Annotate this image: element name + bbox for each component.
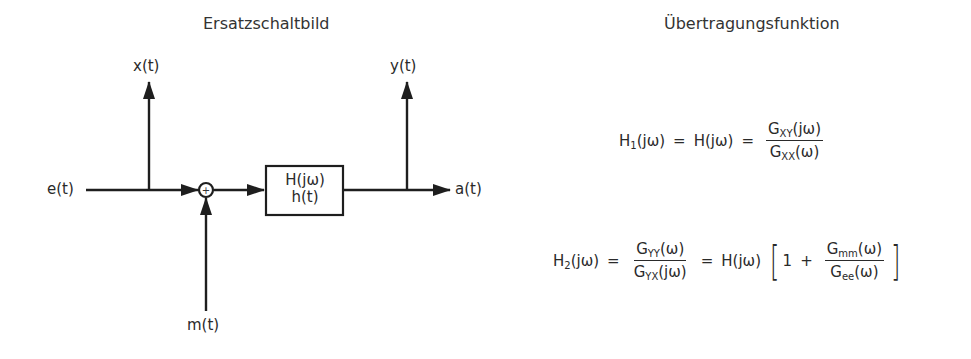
one: 1: [783, 252, 793, 270]
formula-h2: H2(jω) = GYY(ω) GYX(jω) = H(jω) [ 1 + Gm…: [553, 240, 904, 281]
svg-text:+: +: [202, 185, 210, 196]
h2-mid: H(jω): [721, 252, 761, 270]
open-bracket: [: [770, 241, 779, 281]
equals-sign: =: [673, 132, 686, 150]
equals-sign: =: [607, 252, 620, 270]
h2-noise-ratio: Gmm(ω) Gee(ω): [825, 240, 884, 281]
system-block-label: H(jω) h(t): [266, 172, 344, 206]
block-diagram: +: [0, 0, 500, 359]
formula-h1: H1(jω) = H(jω) = GXY(jω) GXX(ω): [619, 120, 827, 161]
plus-sign: +: [800, 252, 813, 270]
h1-mid: H(jω): [694, 132, 734, 150]
h1-lhs: H1(jω): [619, 132, 665, 150]
label-e-t: e(t): [47, 180, 74, 198]
label-y-t: y(t): [390, 57, 416, 75]
label-x-t: x(t): [133, 57, 159, 75]
transfer-function-label: H(jω): [266, 172, 344, 189]
h2-lhs: H2(jω): [553, 252, 599, 270]
equals-sign: =: [741, 132, 754, 150]
h2-fraction: GYY(ω) GYX(jω): [632, 240, 689, 281]
label-a-t: a(t): [455, 180, 482, 198]
close-bracket: ]: [891, 241, 900, 281]
transfer-function-title: Übertragungsfunktion: [664, 14, 840, 33]
h1-fraction: GXY(jω) GXX(ω): [766, 120, 823, 161]
label-m-t: m(t): [187, 316, 219, 334]
equals-sign: =: [701, 252, 714, 270]
impulse-response-label: h(t): [266, 189, 344, 206]
